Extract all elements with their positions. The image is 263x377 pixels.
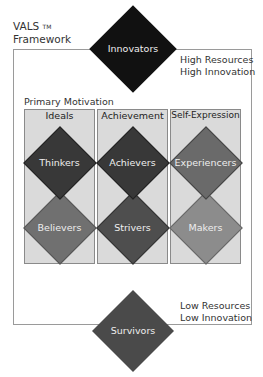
low-innovation-label: Low Innovation <box>180 312 252 324</box>
trademark: TM <box>43 23 52 30</box>
label-experiencers: Experiencers <box>170 157 241 168</box>
low-resources-label: Low Resources <box>180 300 252 312</box>
label-innovators: Innovators <box>88 43 178 54</box>
label-makers: Makers <box>170 222 241 233</box>
label-strivers: Strivers <box>97 222 168 233</box>
label-thinkers: Thinkers <box>24 157 95 168</box>
column-header-achievement: Achievement <box>97 110 168 121</box>
column-header-ideals: Ideals <box>24 110 95 121</box>
high-label: High Resources High Innovation <box>180 54 255 78</box>
label-achievers: Achievers <box>97 157 168 168</box>
primary-motivation-label: Primary Motivation <box>24 96 114 107</box>
label-believers: Believers <box>24 222 95 233</box>
high-innovation-label: High Innovation <box>180 66 255 78</box>
high-resources-label: High Resources <box>180 54 255 66</box>
label-survivors: Survivors <box>88 325 178 336</box>
framework-title: VALS TM Framework <box>13 20 71 46</box>
column-header-self-expression: Self-Expression <box>170 110 241 120</box>
low-label: Low Resources Low Innovation <box>180 300 252 324</box>
title-vals: VALS <box>13 20 39 32</box>
title-framework: Framework <box>13 33 71 45</box>
